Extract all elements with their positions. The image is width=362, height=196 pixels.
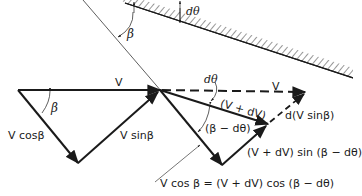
- d-v-sin-beta-label: d(V sinβ): [285, 110, 334, 121]
- beta-minus-dtheta-label: (β − dθ): [205, 123, 251, 134]
- v-dashed-label: V: [272, 81, 280, 92]
- equation-label: V cos β = (V + dV) cos (β − dθ): [160, 178, 334, 189]
- v-cos-beta-label: V cosβ: [8, 130, 45, 141]
- v-dashed-arrow: [162, 90, 305, 92]
- beta-arc-left: [42, 91, 50, 113]
- beta-wall-label: β: [127, 28, 134, 40]
- dtheta-wall-label: dθ: [186, 6, 200, 17]
- v-plus-dv-sin-label: (V + dV) sin (β − dθ): [247, 147, 362, 158]
- dtheta-mid-label: dθ: [204, 74, 218, 85]
- v-sin-beta-label: V sinβ: [120, 130, 154, 141]
- beta-left-label: β: [51, 102, 58, 114]
- v-sin-beta-arrow: [78, 92, 158, 163]
- v-label: V: [115, 77, 123, 88]
